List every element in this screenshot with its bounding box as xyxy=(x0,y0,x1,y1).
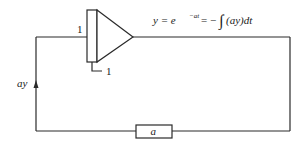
equation-exponent: −at xyxy=(189,12,200,20)
equation-lhs: y = e xyxy=(152,14,176,26)
initial-condition-lead xyxy=(92,62,102,71)
arrow-up-icon xyxy=(34,80,39,88)
equation-rhs-body: (ay)dt xyxy=(226,14,253,27)
feedback-signal-label: ay xyxy=(17,77,28,89)
equation: y = e −at = − ∫ (ay)dt xyxy=(152,12,253,31)
integral-sign-icon: ∫ xyxy=(218,12,225,31)
block-diagram: 1 1 ay a y = e −at = − ∫ (ay)dt xyxy=(0,0,305,147)
integrator-input-box xyxy=(87,10,97,62)
integrator-triangle-icon xyxy=(97,10,133,62)
gain-block-label: a xyxy=(151,125,157,137)
initial-condition-label: 1 xyxy=(106,65,112,77)
integrator-input-gain-label: 1 xyxy=(77,23,83,35)
equation-rhs-prefix: = − xyxy=(201,14,216,26)
integrator-block xyxy=(87,10,133,62)
